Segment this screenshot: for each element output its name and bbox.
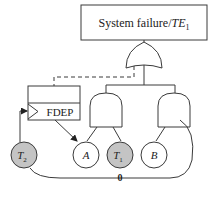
top-event-sub: 1 bbox=[186, 23, 190, 32]
svg-text:A: A bbox=[82, 149, 90, 161]
event-B: B bbox=[141, 142, 167, 168]
svg-text:System failure/TE1: System failure/TE1 bbox=[99, 16, 190, 32]
and-gate-right-icon bbox=[158, 93, 190, 127]
fdep-gate: FDEP bbox=[28, 86, 80, 120]
or-gate-icon bbox=[126, 40, 162, 68]
event-T1: T1 bbox=[107, 142, 133, 168]
top-event-italic: TE bbox=[171, 16, 186, 30]
and-gate-left-icon bbox=[90, 93, 122, 127]
top-event-label: System failure/ bbox=[99, 16, 173, 30]
fdep-trigger-dashed-line bbox=[54, 66, 134, 86]
fault-tree-diagram: System failure/TE1 FDEP 0 T2 bbox=[0, 0, 211, 197]
and-left-to-A bbox=[87, 127, 97, 141]
top-event-box: System failure/TE1 bbox=[81, 5, 207, 40]
and-right-to-B bbox=[156, 127, 165, 141]
event-T2: T2 bbox=[11, 142, 37, 168]
fdep-label: FDEP bbox=[47, 106, 74, 118]
event-A: A bbox=[73, 142, 99, 168]
fdep-to-A-arrow bbox=[55, 120, 77, 141]
T2-to-fdep-arrow bbox=[20, 111, 27, 142]
svg-text:B: B bbox=[151, 149, 158, 161]
and-left-to-T1 bbox=[113, 127, 121, 141]
loop-edge-label: 0 bbox=[118, 172, 123, 183]
